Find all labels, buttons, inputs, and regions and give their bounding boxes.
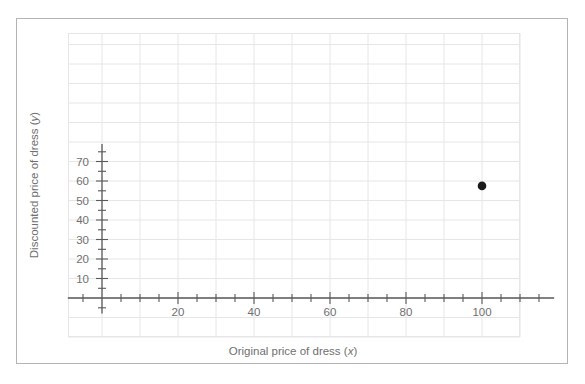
gridlines	[68, 33, 520, 337]
scatter-plot-svg: 2040608010010203040506070 Original price…	[0, 0, 585, 384]
data-point	[478, 182, 487, 191]
axis-lines	[68, 144, 554, 314]
x-tick-label: 80	[400, 306, 413, 318]
axis-ticks	[83, 152, 539, 308]
y-tick-label: 10	[76, 273, 89, 285]
y-tick-label: 30	[76, 234, 89, 246]
chart-figure: 2040608010010203040506070 Original price…	[0, 0, 585, 384]
x-axis-title: Original price of dress (x)	[229, 345, 358, 357]
x-tick-label: 100	[472, 306, 491, 318]
x-tick-label: 60	[324, 306, 337, 318]
y-tick-label: 20	[76, 253, 89, 265]
y-tick-label: 40	[76, 214, 89, 226]
axis-title-text: Discounted price of dress (	[28, 121, 40, 258]
axis-title-paren: )	[28, 112, 40, 116]
y-tick-label: 70	[76, 156, 89, 168]
data-points	[478, 182, 487, 191]
axis-title-text: Original price of dress (	[229, 345, 348, 357]
y-tick-label: 50	[76, 195, 89, 207]
axis-tick-labels: 2040608010010203040506070	[76, 156, 491, 319]
axis-title-paren: )	[353, 345, 357, 357]
x-tick-label: 40	[248, 306, 261, 318]
grid-outline	[69, 34, 520, 337]
x-tick-label: 20	[172, 306, 185, 318]
y-tick-label: 60	[76, 175, 89, 187]
y-axis-title: Discounted price of dress (y)	[28, 112, 40, 259]
